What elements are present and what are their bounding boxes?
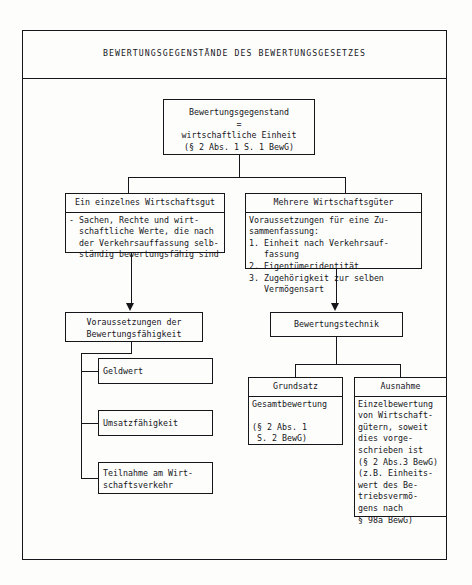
connector-to-multiple bbox=[345, 177, 346, 193]
arrow-to-prerequisites bbox=[126, 303, 134, 311]
connector-technik-bar bbox=[295, 364, 401, 365]
node-ein-einzelnes-wirtschaftsgut: Ein einzelnes Wirtschaftsgut - Sachen, R… bbox=[65, 193, 225, 253]
node-bewertungsgegenstand-line1: Bewertungsgegenstand bbox=[164, 107, 314, 119]
node-teilnahme-am-wirtschaftsverkehr: Teilnahme am Wirt- schaftsverkehr bbox=[98, 462, 213, 494]
node-mehrere-wirtschaftsgueter: Mehrere Wirtschaftsgüter Voraussetzungen… bbox=[245, 193, 422, 269]
connector-single-stem bbox=[131, 253, 132, 281]
node-bewertungstechnik: Bewertungstechnik bbox=[270, 312, 403, 337]
connector-to-teilnahme bbox=[81, 478, 99, 479]
connector-prereq-turn bbox=[81, 353, 132, 354]
connector-to-geldwert bbox=[81, 371, 99, 372]
node-bewertungsgegenstand: Bewertungsgegenstand = wirtschaftliche E… bbox=[163, 99, 315, 155]
node-grundsatz-body: Gesamtbewertung (§ 2 Abs. 1 S. 2 BewG) bbox=[249, 397, 342, 445]
node-umsatzfaehigkeit-label: Umsatzfähigkeit bbox=[99, 418, 212, 430]
node-voraussetzungen-bewertungsfaehigkeit: Voraussetzungen der Bewertungsfähigkeit bbox=[65, 312, 203, 342]
connector-multiple-stem bbox=[336, 269, 337, 304]
node-geldwert-label: Geldwert bbox=[99, 366, 212, 378]
connector-to-single bbox=[128, 177, 129, 193]
title-divider bbox=[22, 78, 447, 79]
node-prereq-line2: Bewertungsfähigkeit bbox=[66, 329, 202, 341]
node-multiple-body: Voraussetzungen für eine Zu- sammenfassu… bbox=[246, 213, 421, 296]
connector-to-grundsatz bbox=[295, 364, 296, 377]
node-prereq-line1: Voraussetzungen der bbox=[66, 317, 202, 329]
connector-to-ausnahme bbox=[400, 364, 401, 377]
connector-top-bar bbox=[128, 177, 345, 178]
node-teilnahme-label: Teilnahme am Wirt- schaftsverkehr bbox=[99, 468, 212, 491]
node-grundsatz: Grundsatz Gesamtbewertung (§ 2 Abs. 1 S.… bbox=[248, 377, 343, 445]
node-geldwert: Geldwert bbox=[98, 358, 213, 384]
node-bewertungsgegenstand-citation: (§ 2 Abs. 1 S. 1 BewG) bbox=[164, 142, 314, 154]
node-bewertungsgegenstand-line3: wirtschaftliche Einheit bbox=[164, 130, 314, 142]
node-single-header: Ein einzelnes Wirtschaftsgut bbox=[66, 194, 224, 213]
node-single-body: - Sachen, Rechte und wirt- schaftliche W… bbox=[66, 213, 224, 261]
node-technik-label: Bewertungstechnik bbox=[271, 319, 402, 331]
arrow-to-technik bbox=[331, 303, 339, 311]
node-multiple-header: Mehrere Wirtschaftsgüter bbox=[246, 194, 421, 213]
connector-top-stem bbox=[239, 155, 240, 177]
page-title: BEWERTUNGSGEGENSTÄNDE DES BEWERTUNGSGESE… bbox=[22, 48, 447, 58]
node-ausnahme-header: Ausnahme bbox=[355, 378, 446, 397]
node-umsatzfaehigkeit: Umsatzfähigkeit bbox=[98, 410, 213, 436]
connector-prereq-stem bbox=[131, 342, 132, 353]
node-bewertungsgegenstand-equals: = bbox=[164, 119, 314, 131]
node-ausnahme-body: Einzelbewertung von Wirtschaft- gütern, … bbox=[355, 397, 446, 527]
connector-single-drop bbox=[131, 281, 132, 304]
node-ausnahme: Ausnahme Einzelbewertung von Wirtschaft-… bbox=[354, 377, 447, 517]
connector-technik-stem bbox=[336, 337, 337, 364]
diagram-page: BEWERTUNGSGEGENSTÄNDE DES BEWERTUNGSGESE… bbox=[0, 0, 472, 585]
connector-to-umsatzfaehigkeit bbox=[81, 423, 99, 424]
node-grundsatz-header: Grundsatz bbox=[249, 378, 342, 397]
